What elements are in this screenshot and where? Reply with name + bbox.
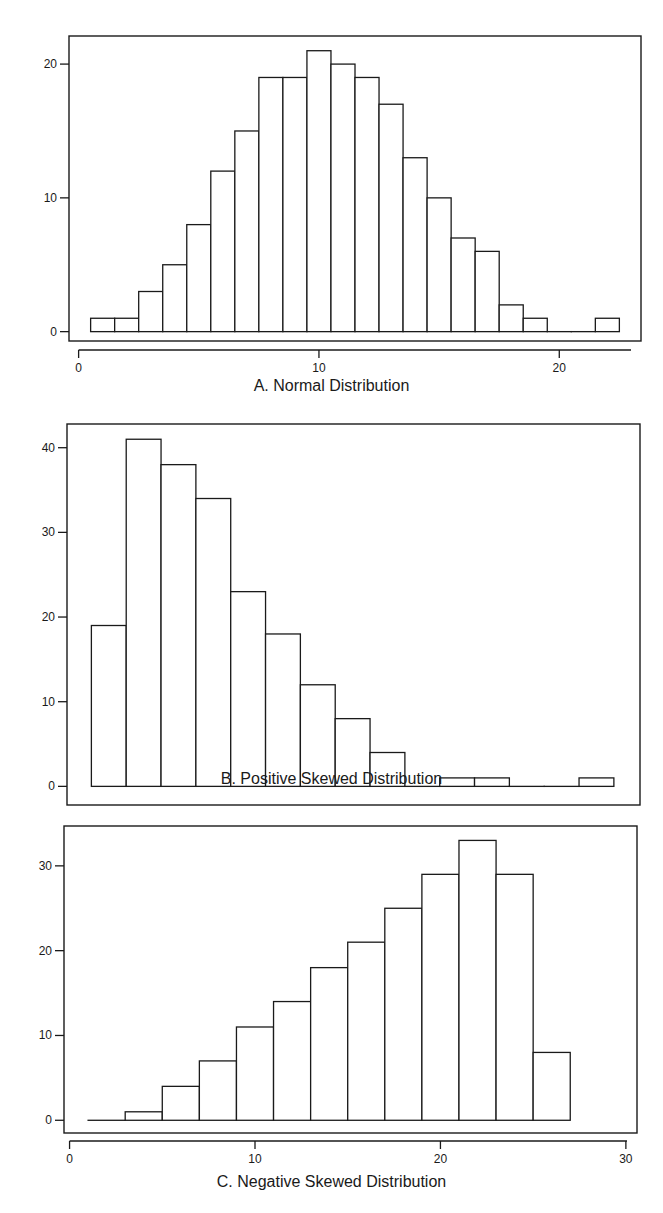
x-tick-label: 0 bbox=[75, 361, 82, 375]
histogram-bar bbox=[187, 225, 211, 332]
histogram-bar bbox=[283, 77, 307, 331]
y-tick-label: 10 bbox=[42, 695, 56, 709]
histogram-bar bbox=[496, 874, 533, 1120]
histogram-bar bbox=[125, 1112, 162, 1120]
histogram-bar bbox=[403, 158, 427, 332]
histogram-bar bbox=[475, 251, 499, 331]
y-tick-label: 30 bbox=[42, 525, 56, 539]
histogram-bar bbox=[139, 292, 163, 332]
x-tick-label: 10 bbox=[312, 361, 326, 375]
histogram-positive-skew: 0102030400102030 B. Positive Skewed Dist… bbox=[0, 410, 663, 810]
histogram-negative-skew-plot: 01020300102030 bbox=[0, 810, 663, 1213]
histogram-bar bbox=[259, 77, 283, 331]
histogram-bar bbox=[331, 64, 355, 332]
histogram-bar bbox=[451, 238, 475, 332]
y-tick-label: 10 bbox=[44, 191, 58, 205]
histogram-bar bbox=[115, 318, 139, 331]
histogram-bar bbox=[422, 874, 459, 1120]
histogram-bar bbox=[499, 305, 523, 332]
histogram-bar bbox=[459, 840, 496, 1120]
y-tick-label: 0 bbox=[45, 1113, 52, 1127]
histogram-bar bbox=[385, 908, 422, 1120]
histogram-bar bbox=[231, 592, 266, 787]
histogram-bar bbox=[595, 318, 619, 331]
y-tick-label: 40 bbox=[42, 441, 56, 455]
histogram-normal-plot: 0102001020 bbox=[0, 0, 663, 410]
histogram-bar bbox=[91, 626, 126, 787]
histogram-bar bbox=[235, 131, 259, 332]
histogram-bar bbox=[91, 318, 115, 331]
histogram-bar bbox=[533, 1052, 570, 1120]
histogram-normal: 0102001020 A. Normal Distribution bbox=[0, 0, 663, 410]
histogram-negative-skew: 01020300102030 C. Negative Skewed Distri… bbox=[0, 810, 663, 1213]
histogram-bar bbox=[162, 1086, 199, 1120]
x-tick-label: 10 bbox=[248, 1152, 262, 1166]
x-tick-label: 20 bbox=[434, 1152, 448, 1166]
chart-title-negative-skew: C. Negative Skewed Distribution bbox=[0, 1173, 663, 1191]
histogram-bar bbox=[355, 77, 379, 331]
y-tick-label: 0 bbox=[50, 325, 57, 339]
histogram-bar bbox=[196, 499, 231, 787]
histogram-bar bbox=[348, 942, 385, 1120]
histogram-bar bbox=[126, 439, 161, 786]
histogram-bar bbox=[307, 51, 331, 332]
bars bbox=[91, 439, 613, 786]
chart-title-positive-skew: B. Positive Skewed Distribution bbox=[0, 770, 663, 788]
histogram-bar bbox=[523, 318, 547, 331]
histogram-bar bbox=[211, 171, 235, 332]
histogram-bar bbox=[311, 968, 348, 1121]
histogram-bar bbox=[266, 634, 301, 786]
y-tick-label: 20 bbox=[42, 610, 56, 624]
histogram-bar bbox=[427, 198, 451, 332]
x-tick-label: 20 bbox=[553, 361, 567, 375]
x-tick-label: 0 bbox=[66, 1152, 73, 1166]
chart-title-normal: A. Normal Distribution bbox=[0, 377, 663, 395]
bars bbox=[88, 840, 570, 1120]
y-tick-label: 20 bbox=[44, 57, 58, 71]
y-tick-label: 20 bbox=[39, 944, 53, 958]
histogram-bar bbox=[379, 104, 403, 331]
y-tick-label: 30 bbox=[39, 859, 53, 873]
y-tick-label: 10 bbox=[39, 1028, 53, 1042]
histogram-positive-skew-plot: 0102030400102030 bbox=[0, 410, 663, 810]
histogram-bar bbox=[236, 1027, 273, 1120]
histogram-bar bbox=[274, 1002, 311, 1121]
histogram-bar bbox=[163, 265, 187, 332]
histogram-bar bbox=[199, 1061, 236, 1120]
x-tick-label: 30 bbox=[619, 1152, 633, 1166]
histogram-bar bbox=[161, 465, 196, 787]
bars bbox=[91, 51, 620, 332]
